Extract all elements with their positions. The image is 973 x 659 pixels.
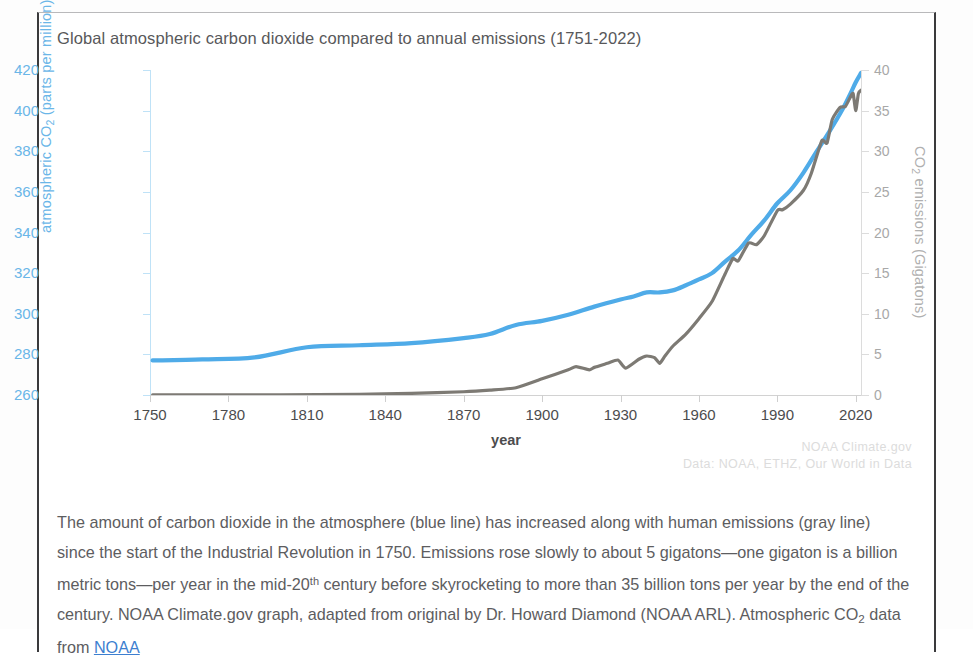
x-tick xyxy=(542,395,543,402)
document-content: Global atmospheric carbon dioxide compar… xyxy=(44,14,930,626)
caption-part-3: per year in the mid-20 xyxy=(152,575,309,593)
plot-wrapper: 260280300320340360380400420 051015202530… xyxy=(44,58,930,410)
x-axis-title: year xyxy=(491,432,521,448)
plot-area xyxy=(150,70,861,395)
x-tick-label: 1840 xyxy=(369,406,402,423)
x-tick xyxy=(856,395,857,402)
right-tick xyxy=(861,192,869,193)
x-tick-label: 1900 xyxy=(525,406,558,423)
right-tick-label: 40 xyxy=(874,63,890,77)
caption-superscript-th: th xyxy=(310,575,319,587)
x-tick-label: 1750 xyxy=(133,406,166,423)
right-tick xyxy=(861,233,869,234)
x-tick xyxy=(464,395,465,402)
right-tick xyxy=(861,395,869,396)
x-tick xyxy=(621,395,622,402)
left-tick-label: 360 xyxy=(14,184,39,199)
right-tick-label: 20 xyxy=(874,226,890,240)
x-tick-label: 1870 xyxy=(447,406,480,423)
right-tick xyxy=(861,151,869,152)
right-tick xyxy=(861,111,869,112)
x-tick-label: 1990 xyxy=(761,406,794,423)
x-tick xyxy=(385,395,386,402)
left-tick-label: 260 xyxy=(14,387,39,402)
right-tick xyxy=(861,273,869,274)
right-tick xyxy=(861,354,869,355)
left-tick-label: 400 xyxy=(14,103,39,118)
left-tick-label: 320 xyxy=(14,265,39,280)
left-tick-label: 420 xyxy=(14,62,39,77)
left-tick-label: 340 xyxy=(14,225,39,240)
left-axis-title: atmospheric CO2 (parts per million) xyxy=(38,0,56,233)
chart-title: Global atmospheric carbon dioxide compar… xyxy=(57,29,641,48)
left-tick-label: 380 xyxy=(14,143,39,158)
co2-chart-figure: Global atmospheric carbon dioxide compar… xyxy=(44,14,930,476)
series-lines xyxy=(150,70,861,395)
co2-concentration-line xyxy=(153,73,861,360)
figure-caption: The amount of carbon dioxide in the atmo… xyxy=(57,508,912,659)
left-axis-title-text: atmospheric CO2 (parts per million) xyxy=(38,0,54,233)
x-tick-label: 1930 xyxy=(604,406,637,423)
x-axis-line xyxy=(150,395,862,396)
left-tick-label: 280 xyxy=(14,346,39,361)
x-tick xyxy=(699,395,700,402)
right-tick-label: 0 xyxy=(874,388,882,402)
right-tick-label: 30 xyxy=(874,144,890,158)
credit-data-sources: Data: NOAA, ETHZ, Our World in Data xyxy=(683,457,912,471)
noaa-link[interactable]: NOAA xyxy=(94,638,140,656)
right-tick-label: 35 xyxy=(874,104,890,118)
x-tick xyxy=(777,395,778,402)
x-tick-label: 1810 xyxy=(290,406,323,423)
caption-dash-2: — xyxy=(136,575,152,593)
x-tick-label: 1780 xyxy=(212,406,245,423)
x-tick-label: 2020 xyxy=(839,406,872,423)
x-tick xyxy=(228,395,229,402)
x-tick xyxy=(150,395,151,402)
right-axis-title-text: CO2 emissions (Gigatons) xyxy=(912,146,928,319)
right-tick-label: 25 xyxy=(874,185,890,199)
caption-dash-1: — xyxy=(721,543,737,561)
x-tick xyxy=(307,395,308,402)
right-tick-label: 15 xyxy=(874,266,890,280)
co2-emissions-line xyxy=(153,90,861,395)
right-axis-title: CO2 emissions (Gigatons) xyxy=(910,146,928,319)
right-tick-label: 5 xyxy=(874,347,882,361)
left-tick-label: 300 xyxy=(14,306,39,321)
right-tick-label: 10 xyxy=(874,307,890,321)
x-tick-label: 1960 xyxy=(682,406,715,423)
credit-noaa: NOAA Climate.gov xyxy=(801,440,912,454)
right-tick xyxy=(861,314,869,315)
right-tick xyxy=(861,70,869,71)
